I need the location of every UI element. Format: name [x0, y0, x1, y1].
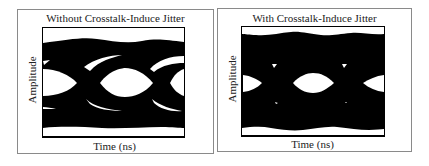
eye-diagram-without-jitter [42, 27, 185, 138]
y-axis-label: Amplitude [226, 49, 238, 109]
eye-diagram-with-jitter [241, 26, 385, 137]
y-axis-label: Amplitude [26, 50, 38, 110]
panel-title: With Crosstalk-Induce Jitter [218, 12, 411, 24]
x-axis-label: Time (ns) [242, 138, 383, 150]
panel-title: Without Crosstalk-Induce Jitter [18, 12, 213, 24]
x-axis-label: Time (ns) [44, 140, 185, 152]
